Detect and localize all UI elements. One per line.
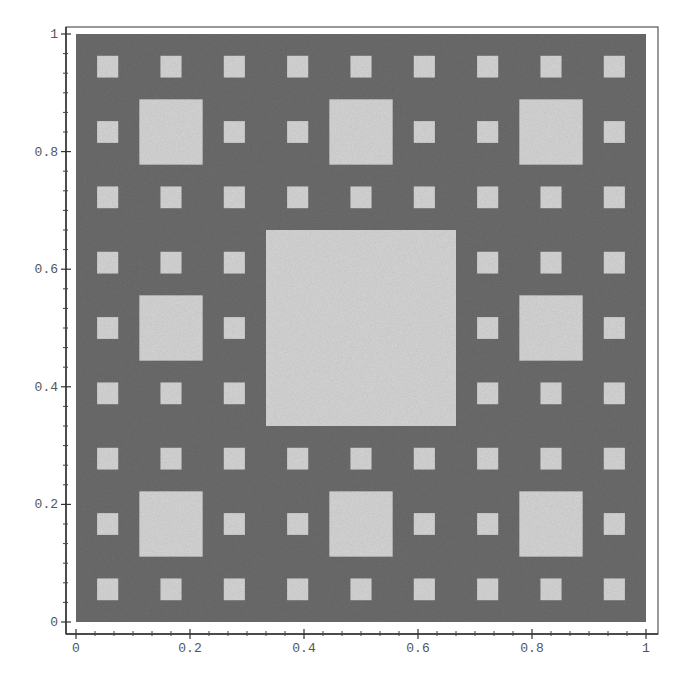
carpet-hole-level-2 — [329, 491, 392, 556]
carpet-hole-level-3 — [477, 578, 498, 600]
carpet-hole-level-3 — [287, 448, 308, 470]
carpet-hole-level-3 — [414, 578, 435, 600]
carpet-hole-level-3 — [540, 252, 561, 274]
carpet-hole-level-3 — [350, 448, 371, 470]
carpet-hole-level-3 — [224, 578, 245, 600]
carpet-hole-level-3 — [477, 448, 498, 470]
carpet-hole-level-2 — [519, 295, 582, 360]
carpet-hole-level-3 — [97, 56, 118, 78]
x-tick-label: 1 — [642, 641, 650, 656]
carpet-hole-level-3 — [604, 382, 625, 404]
carpet-hole-level-3 — [160, 382, 181, 404]
carpet-hole-level-3 — [287, 513, 308, 535]
carpet-hole-level-2 — [139, 491, 202, 556]
carpet-hole-level-3 — [540, 186, 561, 208]
carpet-hole-level-3 — [540, 578, 561, 600]
carpet-hole-level-2 — [139, 99, 202, 164]
carpet-hole-level-3 — [414, 56, 435, 78]
carpet-hole-level-3 — [224, 382, 245, 404]
carpet-hole-level-3 — [414, 448, 435, 470]
x-tick-label: 0.2 — [178, 641, 201, 656]
carpet-hole-level-3 — [97, 317, 118, 339]
carpet-hole-level-3 — [97, 513, 118, 535]
carpet-hole-level-3 — [477, 382, 498, 404]
carpet-hole-level-3 — [224, 252, 245, 274]
y-tick-label: 0 — [50, 615, 58, 630]
carpet-hole-level-3 — [224, 448, 245, 470]
x-tick-label: 0.4 — [292, 641, 316, 656]
carpet-hole-level-3 — [97, 186, 118, 208]
carpet-hole-level-3 — [414, 121, 435, 143]
carpet-hole-level-3 — [224, 317, 245, 339]
carpet-hole-level-3 — [97, 578, 118, 600]
carpet-hole-level-3 — [604, 121, 625, 143]
carpet-hole-level-3 — [97, 448, 118, 470]
carpet-hole-level-3 — [97, 252, 118, 274]
carpet-hole-level-3 — [160, 448, 181, 470]
carpet-hole-level-3 — [350, 56, 371, 78]
y-tick-label: 0.4 — [35, 380, 59, 395]
carpet-hole-level-3 — [160, 578, 181, 600]
carpet-hole-level-3 — [224, 513, 245, 535]
carpet-hole-level-1 — [266, 230, 456, 426]
carpet-hole-level-2 — [329, 99, 392, 164]
carpet-hole-level-3 — [287, 186, 308, 208]
carpet-hole-level-3 — [477, 252, 498, 274]
carpet-holes — [97, 56, 625, 600]
carpet-hole-level-3 — [604, 252, 625, 274]
carpet-hole-level-3 — [160, 252, 181, 274]
carpet-hole-level-3 — [287, 56, 308, 78]
y-axis: 00.20.40.60.81 — [35, 27, 71, 634]
y-tick-label: 1 — [50, 27, 58, 42]
carpet-hole-level-3 — [414, 513, 435, 535]
carpet-hole-level-3 — [224, 56, 245, 78]
carpet-hole-level-3 — [604, 56, 625, 78]
carpet-hole-level-3 — [604, 448, 625, 470]
carpet-hole-level-3 — [287, 121, 308, 143]
carpet-hole-level-3 — [414, 186, 435, 208]
carpet-hole-level-3 — [540, 382, 561, 404]
x-tick-label: 0.6 — [406, 641, 429, 656]
carpet-hole-level-3 — [477, 513, 498, 535]
x-axis: 00.20.40.60.81 — [66, 629, 658, 656]
carpet-hole-level-3 — [540, 448, 561, 470]
carpet-hole-level-3 — [604, 186, 625, 208]
x-tick-label: 0 — [72, 641, 80, 656]
carpet-hole-level-3 — [287, 578, 308, 600]
carpet-hole-level-3 — [604, 513, 625, 535]
carpet-hole-level-3 — [350, 578, 371, 600]
carpet-hole-level-3 — [350, 186, 371, 208]
carpet-hole-level-3 — [477, 56, 498, 78]
carpet-hole-level-3 — [224, 121, 245, 143]
carpet-hole-level-2 — [519, 99, 582, 164]
x-tick-label: 0.8 — [520, 641, 543, 656]
carpet-hole-level-3 — [604, 578, 625, 600]
carpet-hole-level-3 — [97, 382, 118, 404]
carpet-hole-level-3 — [97, 121, 118, 143]
carpet-hole-level-3 — [477, 186, 498, 208]
y-tick-label: 0.2 — [35, 497, 58, 512]
sierpinski-carpet-chart: 00.20.40.60.81 00.20.40.60.81 — [0, 0, 681, 685]
carpet-hole-level-3 — [477, 121, 498, 143]
plot-area — [76, 34, 646, 622]
carpet-hole-level-3 — [604, 317, 625, 339]
y-tick-label: 0.8 — [35, 145, 58, 160]
carpet-hole-level-3 — [160, 186, 181, 208]
y-tick-label: 0.6 — [35, 262, 58, 277]
carpet-hole-level-3 — [477, 317, 498, 339]
carpet-hole-level-2 — [139, 295, 202, 360]
carpet-hole-level-2 — [519, 491, 582, 556]
carpet-hole-level-3 — [224, 186, 245, 208]
carpet-hole-level-3 — [160, 56, 181, 78]
carpet-hole-level-3 — [540, 56, 561, 78]
